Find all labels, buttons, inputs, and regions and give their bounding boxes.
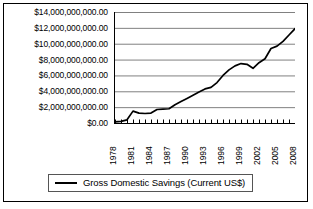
x-axis-tick-label: 2005 xyxy=(271,146,280,165)
y-axis-tick-label: $4,000,000,000.00 xyxy=(39,87,108,96)
y-axis-tick-label: $10,000,000,000.00 xyxy=(34,39,108,48)
y-axis-tick-label: $8,000,000,000.00 xyxy=(39,55,108,64)
legend-line-swatch xyxy=(55,182,77,184)
x-axis-tick-label: 1990 xyxy=(181,146,190,165)
x-axis-tick-label: 1987 xyxy=(163,146,172,165)
y-axis-tick-label: $14,000,000,000.00 xyxy=(34,8,108,17)
plot-area xyxy=(114,12,295,124)
y-axis-tick-label: $12,000,000,000.00 xyxy=(34,23,108,32)
y-axis-tick-label: $2,000,000,000.00 xyxy=(39,103,108,112)
line-chart-svg xyxy=(115,12,295,123)
x-axis-tick-label: 1996 xyxy=(217,146,226,165)
x-axis-tick-label: 1993 xyxy=(199,146,208,165)
x-axis-tick-label: 1978 xyxy=(109,146,118,165)
y-axis-labels: $14,000,000,000.00$12,000,000,000.00$10,… xyxy=(4,11,112,129)
x-axis-tick-label: 1999 xyxy=(235,146,244,165)
y-axis-tick-label: $0.00 xyxy=(87,119,108,128)
x-axis-tick-label: 1981 xyxy=(127,146,136,165)
chart-legend: Gross Domestic Savings (Current US$) xyxy=(48,174,253,192)
x-axis-tick-label: 1984 xyxy=(145,146,154,165)
x-axis-tick-label: 2008 xyxy=(289,146,298,165)
x-axis-labels: 1978198119841987199019931996199920022005… xyxy=(114,125,296,165)
chart-plot-area-wrapper: $14,000,000,000.00$12,000,000,000.00$10,… xyxy=(4,4,309,203)
chart-frame: $14,000,000,000.00$12,000,000,000.00$10,… xyxy=(3,3,308,202)
x-axis-tick-label: 2002 xyxy=(253,146,262,165)
y-axis-tick-label: $6,000,000,000.00 xyxy=(39,71,108,80)
legend-label: Gross Domestic Savings (Current US$) xyxy=(83,177,245,188)
